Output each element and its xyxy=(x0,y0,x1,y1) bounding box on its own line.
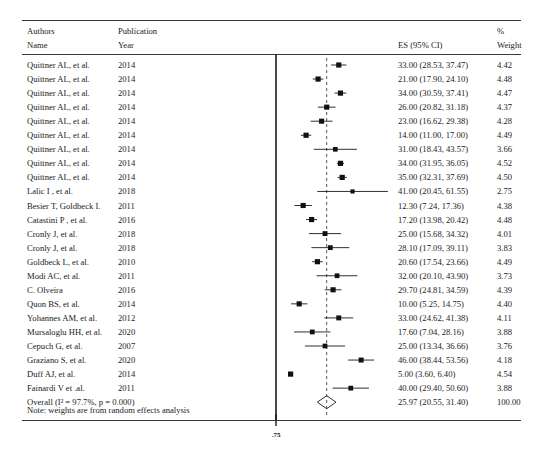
study-es: 34.00 (31.95, 36.05) xyxy=(398,156,468,170)
study-author: Lalic I , et al. xyxy=(27,184,73,198)
table-row: Quittner AL, et al.201434.00 (31.95, 36.… xyxy=(0,156,543,170)
study-weight: 4.18 xyxy=(497,353,512,367)
study-year: 2014 xyxy=(118,58,135,72)
study-weight: 4.48 xyxy=(497,72,512,86)
study-author: Quittner AL, et al. xyxy=(27,58,90,72)
column-header-weight: Weight xyxy=(497,39,522,51)
study-author: Quittner AL, et al. xyxy=(27,100,90,114)
study-year: 2011 xyxy=(118,381,135,395)
study-year: 2014 xyxy=(118,156,135,170)
table-row: Quon BS, et al.201410.00 (5.25, 14.75)4.… xyxy=(0,297,543,311)
study-es: 40.00 (29.40, 50.60) xyxy=(398,381,468,395)
study-author: Fainardi V et .al. xyxy=(27,381,85,395)
study-es: 5.00 (3.60, 6.40) xyxy=(398,367,455,381)
axis-tick-label: .75 xyxy=(272,431,281,439)
footnote: Note: weights are from random effects an… xyxy=(27,403,190,417)
study-author: Quittner AL, et al. xyxy=(27,156,90,170)
column-header-percent: % xyxy=(497,25,504,37)
study-es: 14.00 (11.00, 17.00) xyxy=(398,128,468,142)
study-es: 41.00 (20.45, 61.55) xyxy=(398,184,468,198)
column-header-publication: Publication xyxy=(118,25,157,37)
study-author: Quittner AL, et al. xyxy=(27,128,90,142)
study-es: 31.00 (18.43, 43.57) xyxy=(398,142,468,156)
table-row: Quittner AL, et al.201434.00 (30.59, 37.… xyxy=(0,86,543,100)
column-header-es: ES (95% CI) xyxy=(398,39,442,51)
study-es: 29.70 (24.81, 34.59) xyxy=(398,283,468,297)
study-weight: 4.48 xyxy=(497,213,512,227)
study-weight: 4.39 xyxy=(497,283,512,297)
study-es: 33.00 (24.62, 41.38) xyxy=(398,311,468,325)
table-row: Cronly J, et al.201828.10 (17.09, 39.11)… xyxy=(0,241,543,255)
study-author: Quittner AL, et al. xyxy=(27,142,90,156)
study-weight: 3.88 xyxy=(497,325,512,339)
study-year: 2018 xyxy=(118,241,135,255)
study-es: 32.00 (20.10, 43.90) xyxy=(398,269,468,283)
study-author: Cepuch G, et al. xyxy=(27,339,83,353)
study-year: 2016 xyxy=(118,213,135,227)
study-author: Cronly J, et al. xyxy=(27,227,77,241)
study-weight: 4.01 xyxy=(497,227,512,241)
study-es: 25.00 (13.34, 36.66) xyxy=(398,339,468,353)
table-row: Cronly J, et al.201825.00 (15.68, 34.32)… xyxy=(0,227,543,241)
study-weight: 4.50 xyxy=(497,170,512,184)
table-row: Quittner AL, et al.201431.00 (18.43, 43.… xyxy=(0,142,543,156)
study-author: Cronly J, et al. xyxy=(27,241,77,255)
study-year: 2014 xyxy=(118,297,135,311)
study-weight: 100.00 xyxy=(497,395,521,409)
study-weight: 4.52 xyxy=(497,156,512,170)
column-header-name: Name xyxy=(27,39,48,51)
study-es: 34.00 (30.59, 37.41) xyxy=(398,86,468,100)
forest-plot: Authors Name Publication Year ES (95% CI… xyxy=(0,0,543,458)
study-weight: 4.47 xyxy=(497,86,512,100)
table-row: Quittner AL, et al.201435.00 (32.31, 37.… xyxy=(0,170,543,184)
study-author: Modi AC, et al. xyxy=(27,269,80,283)
study-year: 2014 xyxy=(118,72,135,86)
table-row: Cepuch G, et al.200725.00 (13.34, 36.66)… xyxy=(0,339,543,353)
table-row: Mursaloglu HH, et al.202017.60 (7.04, 28… xyxy=(0,325,543,339)
study-author: Quittner AL, et al. xyxy=(27,72,90,86)
study-es: 28.10 (17.09, 39.11) xyxy=(398,241,468,255)
top-rule xyxy=(22,20,521,21)
table-row: Duff AJ, et al.20145.00 (3.60, 6.40)4.54 xyxy=(0,367,543,381)
table-row: Yohannes AM, et al.201233.00 (24.62, 41.… xyxy=(0,311,543,325)
study-weight: 4.49 xyxy=(497,255,512,269)
study-weight: 4.49 xyxy=(497,128,512,142)
study-weight: 3.88 xyxy=(497,381,512,395)
study-es: 10.00 (5.25, 14.75) xyxy=(398,297,464,311)
study-year: 2020 xyxy=(118,325,135,339)
study-year: 2012 xyxy=(118,311,135,325)
study-weight: 3.73 xyxy=(497,269,512,283)
study-year: 2014 xyxy=(118,100,135,114)
column-header-authors: Authors xyxy=(27,25,55,37)
study-es: 25.00 (15.68, 34.32) xyxy=(398,227,468,241)
study-es: 46.00 (38.44, 53.56) xyxy=(398,353,468,367)
table-row: C. Olveira201629.70 (24.81, 34.59)4.39 xyxy=(0,283,543,297)
study-year: 2014 xyxy=(118,170,135,184)
study-year: 2014 xyxy=(118,367,135,381)
study-year: 2020 xyxy=(118,353,135,367)
study-year: 2014 xyxy=(118,86,135,100)
study-weight: 4.54 xyxy=(497,367,512,381)
study-weight: 4.42 xyxy=(497,58,512,72)
study-author: Duff AJ, et al. xyxy=(27,367,75,381)
study-year: 2014 xyxy=(118,128,135,142)
study-weight: 3.76 xyxy=(497,339,512,353)
study-es: 35.00 (32.31, 37.69) xyxy=(398,170,468,184)
study-es: 33.00 (28.53, 37.47) xyxy=(398,58,468,72)
study-es: 23.00 (16.62, 29.38) xyxy=(398,114,468,128)
study-year: 2011 xyxy=(118,199,135,213)
study-weight: 4.40 xyxy=(497,297,512,311)
study-author: Catastini P , et al. xyxy=(27,213,87,227)
study-author: Yohannes AM, et al. xyxy=(27,311,97,325)
study-author: Quittner AL, et al. xyxy=(27,86,90,100)
study-author: Besier T, Goldbeck I. xyxy=(27,199,100,213)
study-year: 2016 xyxy=(118,283,135,297)
study-author: Quittner AL, et al. xyxy=(27,114,90,128)
study-year: 2007 xyxy=(118,339,135,353)
study-weight: 3.66 xyxy=(497,142,512,156)
study-weight: 4.11 xyxy=(497,311,512,325)
table-row: Graziano S, et al.202046.00 (38.44, 53.5… xyxy=(0,353,543,367)
table-row: Catastini P , et al.201617.20 (13.98, 20… xyxy=(0,213,543,227)
study-year: 2010 xyxy=(118,255,135,269)
study-weight: 4.38 xyxy=(497,199,512,213)
